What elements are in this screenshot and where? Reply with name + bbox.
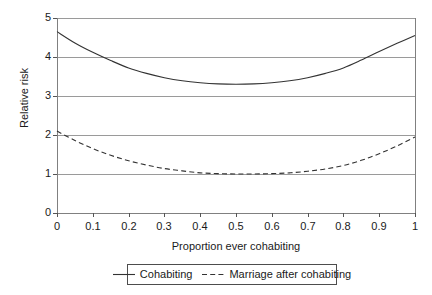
series-cohabiting-line [57,32,415,85]
x-tick-mark-0.8 [343,213,344,217]
x-tick-mark-1 [415,213,416,217]
x-tick-mark-0.9 [379,213,380,217]
x-axis-title: Proportion ever cohabiting [57,240,415,252]
y-tick-label-1: 1 [36,168,51,179]
legend-label-marriage-after-cohabiting: Marriage after cohabiting [229,269,351,280]
y-tick-label-4: 4 [36,51,51,62]
x-tick-mark-0.5 [236,213,237,217]
x-tick-label-0.5: 0.5 [219,221,253,232]
y-tick-label-5: 5 [36,12,51,23]
x-tick-label-0.8: 0.8 [326,221,360,232]
plot-right-border [415,18,416,214]
x-tick-mark-0.1 [93,213,94,217]
chart-curves [57,18,415,213]
chart-legend: Cohabiting Marriage after cohabiting [127,264,337,285]
chart-figure: Relative risk 012345 00.10.20.30.40.50.6… [0,0,432,295]
x-tick-label-0.6: 0.6 [255,221,289,232]
x-tick-label-0.2: 0.2 [112,221,146,232]
x-tick-label-0.9: 0.9 [362,221,396,232]
x-tick-mark-0.3 [164,213,165,217]
y-tick-label-3: 3 [36,90,51,101]
x-tick-mark-0.6 [272,213,273,217]
x-tick-mark-0.7 [308,213,309,217]
legend-entry-cohabiting: Cohabiting [113,269,193,280]
legend-label-cohabiting: Cohabiting [140,269,193,280]
x-tick-mark-0.2 [129,213,130,217]
x-tick-label-0.3: 0.3 [147,221,181,232]
y-axis-title: Relative risk [18,28,30,168]
x-tick-label-0.1: 0.1 [76,221,110,232]
x-tick-label-0.7: 0.7 [291,221,325,232]
legend-dashed-line-icon [202,270,224,279]
y-tick-label-2: 2 [36,129,51,140]
legend-entry-marriage-after-cohabiting: Marriage after cohabiting [202,269,351,280]
x-tick-mark-0 [57,213,58,217]
legend-solid-line-icon [113,270,135,279]
x-tick-label-1: 1 [398,221,432,232]
x-tick-label-0: 0 [40,221,74,232]
y-tick-label-0: 0 [36,207,51,218]
series-marriage-after-cohabiting-line [57,131,415,174]
x-tick-label-0.4: 0.4 [183,221,217,232]
x-tick-mark-0.4 [200,213,201,217]
